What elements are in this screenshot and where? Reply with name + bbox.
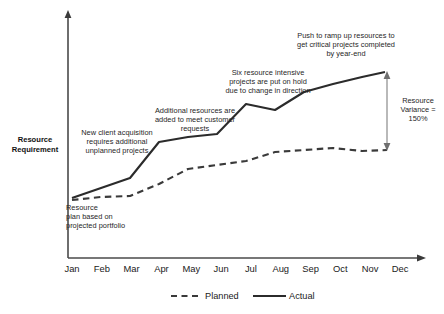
y-axis-arrowhead (65, 10, 72, 18)
annotation-additional-resources: Additional resources are added to meet c… (140, 106, 250, 134)
chart-canvas: Resource Requirement Resource plan based… (0, 0, 444, 314)
x-axis-arrowhead (417, 254, 426, 261)
series-line-planned (72, 148, 387, 200)
x-axis (68, 254, 426, 261)
annotation-resource-plan: Resource plan based on projected portfol… (66, 203, 176, 231)
legend-label-planned: Planned (205, 291, 239, 301)
x-tick-may: May (176, 263, 206, 274)
x-tick-feb: Feb (87, 263, 117, 274)
x-tick-jul: Jul (236, 263, 266, 274)
x-tick-dec: Dec (385, 263, 415, 274)
annotation-push-to-ramp-up: Push to ramp up resources to get critica… (276, 31, 416, 59)
x-tick-jan: Jan (57, 263, 87, 274)
y-axis-title: Resource Requirement (6, 135, 64, 154)
variance-label: Resource Variance = 150% (393, 96, 443, 124)
x-tick-apr: Apr (146, 263, 176, 274)
x-tick-jun: Jun (206, 263, 236, 274)
x-tick-mar: Mar (117, 263, 147, 274)
x-tick-sep: Sep (296, 263, 326, 274)
x-tick-aug: Aug (266, 263, 296, 274)
legend-label-actual: Actual (289, 291, 315, 301)
annotation-six-resource-intensive: Six resource intensive projects are put … (208, 68, 328, 96)
x-tick-oct: Oct (325, 263, 355, 274)
variance-arrow (384, 71, 391, 151)
x-tick-nov: Nov (355, 263, 385, 274)
